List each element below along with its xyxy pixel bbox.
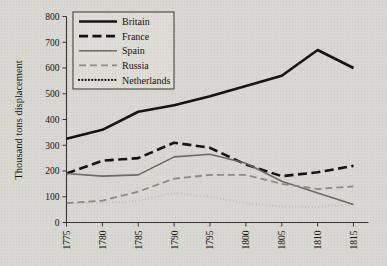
chart-legend: BritainFranceSpainRussiaNetherlands: [73, 12, 174, 89]
legend-label-britain: Britain: [122, 16, 150, 27]
y-tick-label: 500: [45, 89, 60, 99]
y-tick-label: 0: [55, 218, 60, 228]
y-axis-title: Thousand tons displacement: [13, 60, 24, 180]
x-tick-label: 1805: [277, 230, 287, 249]
x-tick-label: 1785: [134, 230, 144, 249]
x-tick-label: 1775: [62, 230, 72, 249]
y-axis-title-label: Thousand tons displacement: [13, 60, 24, 180]
x-tick-label: 1795: [205, 230, 215, 249]
x-tick-label: 1810: [313, 230, 323, 249]
legend-label-france: France: [122, 31, 150, 42]
chart-figure: Thousand tons displacement 0100200300400…: [0, 0, 387, 266]
x-tick-label: 1815: [349, 230, 359, 249]
y-tick-label: 700: [45, 38, 60, 48]
y-tick-label: 200: [45, 166, 60, 176]
y-tick-label: 800: [45, 12, 60, 22]
y-tick-label: 300: [45, 141, 60, 151]
line-chart: Thousand tons displacement 0100200300400…: [0, 0, 387, 266]
x-tick-label: 1780: [98, 230, 108, 249]
y-tick-label: 100: [45, 192, 60, 202]
legend-label-russia: Russia: [122, 60, 149, 71]
y-tick-label: 600: [45, 63, 60, 73]
legend-label-netherlands: Netherlands: [122, 75, 170, 86]
x-tick-label: 1800: [241, 230, 251, 249]
x-tick-label: 1790: [170, 230, 180, 249]
legend-label-spain: Spain: [122, 45, 145, 56]
y-tick-label: 400: [45, 115, 60, 125]
